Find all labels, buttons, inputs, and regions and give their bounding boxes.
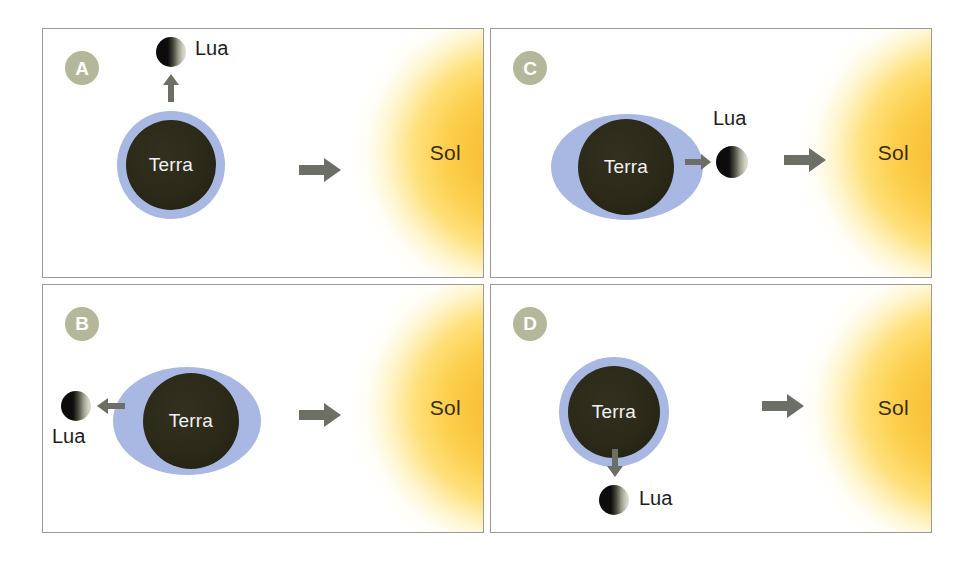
earth-body: Terra [578,119,674,215]
panel-b: Sol B Terra Lua [42,284,484,534]
moon-label: Lua [52,425,85,448]
sun-direction-arrow-right-icon [761,393,805,419]
panel-badge-b: B [65,307,99,341]
moon-direction-arrow-left-icon [96,397,126,415]
earth-label: Terra [149,154,193,176]
moon-label: Lua [639,487,672,510]
panel-c: Sol C Terra Lua [490,28,932,278]
moon-body [599,485,629,515]
earth-body: Terra [126,120,216,210]
earth-label: Terra [592,401,636,423]
earth-group: Terra [113,367,261,475]
moon-body [61,391,91,421]
earth-body: Terra [143,373,239,469]
moon-direction-arrow-right-icon [684,153,712,171]
panel-badge-c: C [513,51,547,85]
earth-group: Terra [117,111,225,219]
earth-body: Terra [568,366,660,458]
moon-label: Lua [713,107,746,130]
sun-label: Sol [878,396,909,420]
moon-body [716,146,748,178]
moon-body [156,37,186,67]
sun-label: Sol [430,141,461,165]
moon-direction-arrow-up-icon [161,73,181,103]
panel-a: Sol A Terra Lua [42,28,484,278]
sun-label: Sol [430,396,461,420]
panel-d: Sol D Terra Lua [490,284,932,534]
earth-group: Terra [551,114,703,220]
earth-label: Terra [169,410,213,432]
panel-badge-d: D [513,307,547,341]
moon-label: Lua [195,37,228,60]
diagram-grid: Sol A Terra Lua Sol C Ter [42,28,932,533]
moon-direction-arrow-down-icon [605,448,625,478]
panel-badge-a: A [65,51,99,85]
earth-label: Terra [604,156,648,178]
sun-label: Sol [878,141,909,165]
sun-direction-arrow-right-icon [298,157,342,183]
sun-direction-arrow-right-icon [783,147,827,173]
sun-direction-arrow-right-icon [298,402,342,428]
